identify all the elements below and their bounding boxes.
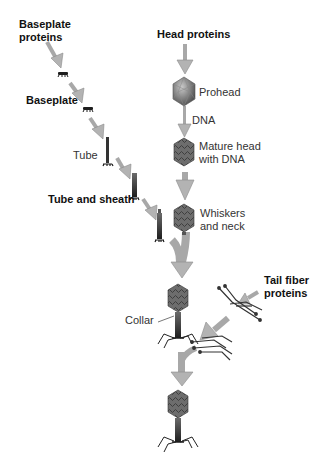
arrow-baseplate-proteins [47, 42, 63, 68]
label-line: Tail fiber [264, 274, 309, 287]
label-prohead: Prohead [199, 86, 241, 99]
tail-fibers-assembled-icon [191, 336, 232, 360]
assembly-diagram [0, 0, 321, 460]
tail-fibers-loose-icon [218, 285, 262, 322]
label-line: Baseplate [19, 18, 71, 31]
arrow-final [171, 348, 196, 386]
label-line: proteins [264, 287, 309, 300]
whiskers-neck-head-icon [174, 204, 194, 235]
baseplate-icon [83, 107, 93, 112]
label-whiskers-and-neck: Whiskers and neck [200, 207, 245, 233]
complete-phage-icon [158, 390, 198, 452]
arrow-to-tail-assembly [143, 199, 157, 220]
label-head-proteins: Head proteins [157, 28, 230, 41]
baseplate-proteins-icon [58, 72, 68, 77]
label-line: Mature head [199, 140, 261, 153]
arrow-to-tube [90, 118, 104, 139]
collar-pointer [158, 316, 174, 322]
label-mature-head: Mature head with DNA [199, 140, 261, 166]
mature-head-icon [174, 138, 194, 166]
label-dna: DNA [192, 114, 215, 127]
arrow-to-whiskers [176, 172, 194, 200]
arrow-to-tube-sheath [117, 158, 131, 179]
label-tube: Tube [73, 149, 98, 162]
label-baseplate: Baseplate [26, 94, 78, 107]
label-tube-and-sheath: Tube and sheath [48, 193, 135, 206]
label-tail-fiber-proteins: Tail fiber proteins [264, 274, 309, 300]
prohead-icon [173, 77, 195, 106]
tube-icon [103, 137, 113, 166]
arrow-dna [178, 106, 191, 137]
label-line: with DNA [199, 153, 261, 166]
phage-without-fibers-icon [158, 284, 198, 348]
arrow-head-proteins [177, 44, 193, 74]
label-baseplate-proteins: Baseplate proteins [19, 18, 71, 44]
label-line: and neck [200, 220, 245, 233]
arrow-merge-head-tail [171, 232, 193, 278]
label-line: Whiskers [200, 207, 245, 220]
label-line: proteins [19, 31, 71, 44]
label-collar: Collar [125, 314, 154, 327]
